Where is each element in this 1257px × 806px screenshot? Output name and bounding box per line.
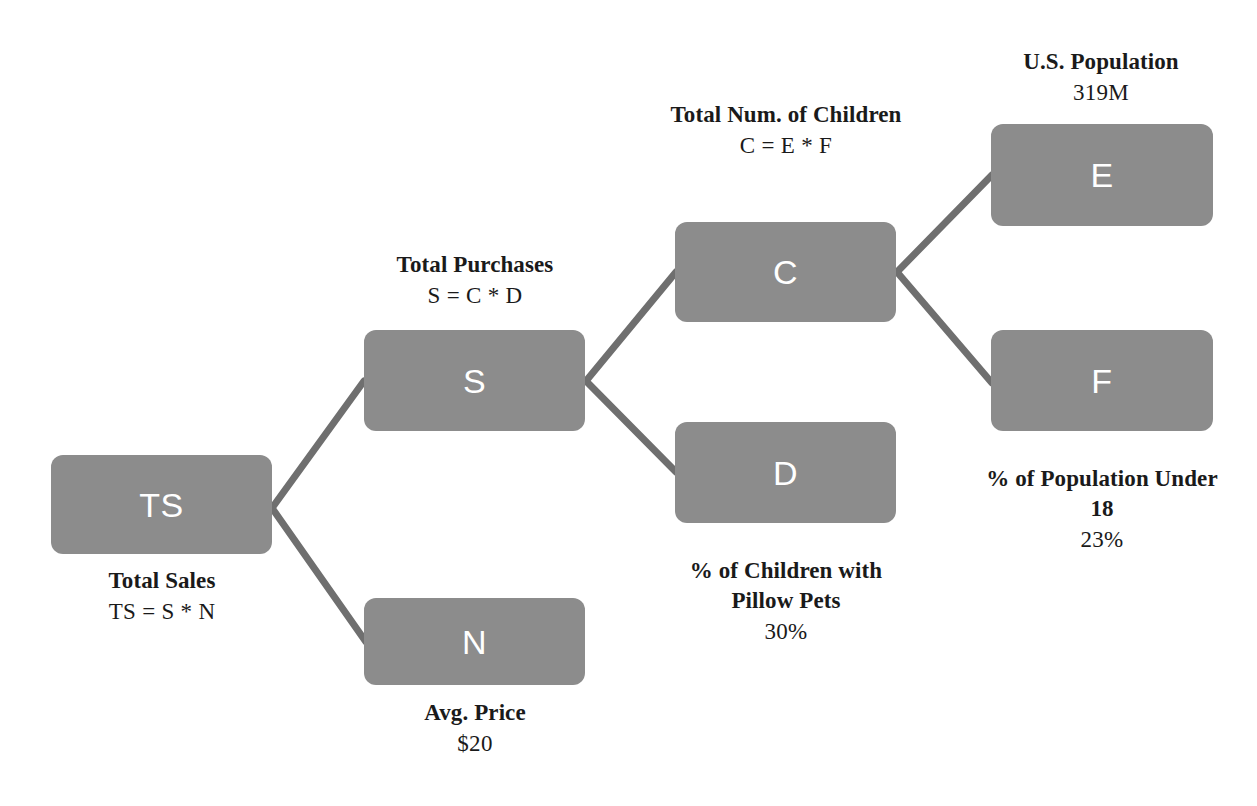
edge-c-f — [897, 272, 992, 383]
diagram-canvas: TS Total Sales TS = S * N Total Purchase… — [0, 0, 1257, 806]
node-c[interactable]: C — [675, 222, 896, 322]
node-n-letter: N — [462, 625, 487, 659]
node-f-letter: F — [1091, 364, 1112, 398]
caption-children-pillow-pets: % of Children with Pillow Pets 30% — [660, 556, 912, 647]
node-ts[interactable]: TS — [51, 455, 272, 554]
caption-population-under-18-title: % of Population Under 18 — [976, 464, 1228, 524]
caption-avg-price-formula: $20 — [344, 729, 606, 759]
node-c-letter: C — [773, 255, 798, 289]
caption-total-children-formula: C = E * F — [665, 131, 907, 161]
edge-ts-s — [272, 381, 364, 508]
caption-total-children: Total Num. of Children C = E * F — [665, 100, 907, 161]
node-f[interactable]: F — [991, 330, 1213, 431]
caption-total-purchases-formula: S = C * D — [344, 281, 606, 311]
caption-us-population-title: U.S. Population — [975, 47, 1227, 77]
node-ts-letter: TS — [139, 488, 183, 522]
caption-us-population-formula: 319M — [975, 78, 1227, 108]
caption-us-population: U.S. Population 319M — [975, 47, 1227, 108]
node-s-letter: S — [463, 364, 486, 398]
caption-population-under-18-formula: 23% — [976, 525, 1228, 555]
caption-children-pillow-pets-title: % of Children with Pillow Pets — [660, 556, 912, 616]
caption-total-sales: Total Sales TS = S * N — [31, 566, 293, 627]
edge-s-d — [586, 381, 676, 472]
caption-total-sales-title: Total Sales — [31, 566, 293, 596]
caption-avg-price-title: Avg. Price — [344, 698, 606, 728]
node-e[interactable]: E — [991, 124, 1213, 226]
caption-total-sales-formula: TS = S * N — [31, 597, 293, 627]
caption-total-children-title: Total Num. of Children — [665, 100, 907, 130]
node-d-letter: D — [773, 456, 798, 490]
edge-c-e — [897, 175, 992, 272]
node-n[interactable]: N — [364, 598, 585, 685]
caption-avg-price: Avg. Price $20 — [344, 698, 606, 759]
node-e-letter: E — [1090, 158, 1113, 192]
caption-total-purchases-title: Total Purchases — [344, 250, 606, 280]
caption-population-under-18: % of Population Under 18 23% — [976, 464, 1228, 555]
node-s[interactable]: S — [364, 330, 585, 431]
node-d[interactable]: D — [675, 422, 896, 523]
caption-total-purchases: Total Purchases S = C * D — [344, 250, 606, 311]
caption-children-pillow-pets-formula: 30% — [660, 617, 912, 647]
